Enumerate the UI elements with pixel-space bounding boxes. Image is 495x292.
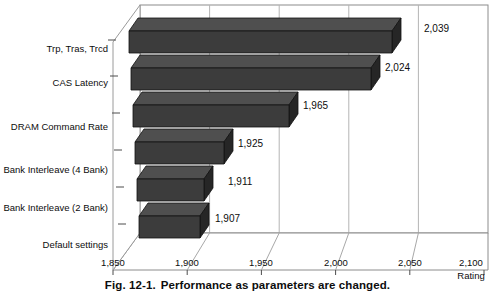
- x-tick-label-1850: 1,850: [101, 258, 125, 268]
- figure-number: Fig. 12-1.: [105, 279, 156, 291]
- bar-front-face: [137, 179, 204, 201]
- bar-top-face: [137, 166, 213, 179]
- bar-front-face: [135, 142, 224, 164]
- bar-bank-interleave-4: [135, 129, 233, 164]
- data-label-cas-latency: 2,024: [385, 63, 410, 73]
- bar-top-face: [129, 18, 401, 31]
- x-tick-label-2100: 2,100: [459, 258, 483, 268]
- bar-front-face: [139, 216, 200, 238]
- x-tick-label-1950: 1,950: [249, 258, 273, 268]
- data-label-bank-interleave-2: 1,911: [228, 177, 252, 187]
- floor-plane: [113, 233, 488, 270]
- figure-3d-bar-chart: Trp, Tras, Trcd CAS Latency DRAM Command…: [0, 0, 495, 292]
- data-label-default-settings: 1,907: [215, 214, 240, 224]
- bar-default-settings: [139, 203, 209, 238]
- bar-front-face: [133, 105, 289, 127]
- bar-front-face: [131, 68, 371, 90]
- bar-top-face: [133, 92, 298, 105]
- x-tick-label-2050: 2,050: [398, 258, 422, 268]
- bar-top-face: [139, 203, 209, 216]
- data-label-bank-interleave-4: 1,925: [238, 139, 263, 149]
- bar-cas-latency: [131, 55, 380, 90]
- data-label-dram-command-rate: 1,965: [303, 101, 328, 111]
- figure-caption-text: Performance as parameters are changed.: [161, 279, 390, 291]
- bar-top-face: [131, 55, 380, 68]
- bar-trp-tras-trcd: [129, 18, 401, 53]
- x-tick-label-1900: 1,900: [175, 258, 199, 268]
- bar-top-face: [135, 129, 233, 142]
- bar-bank-interleave-2: [137, 166, 213, 201]
- bar-dram-command-rate: [133, 92, 298, 127]
- x-tick-label-2000: 2,000: [324, 258, 348, 268]
- data-label-trp-tras-trcd: 2,039: [424, 24, 449, 34]
- figure-caption: Fig. 12-1.Performance as parameters are …: [0, 279, 495, 292]
- bar-front-face: [129, 31, 392, 53]
- x-axis-tick-marks: [113, 270, 484, 275]
